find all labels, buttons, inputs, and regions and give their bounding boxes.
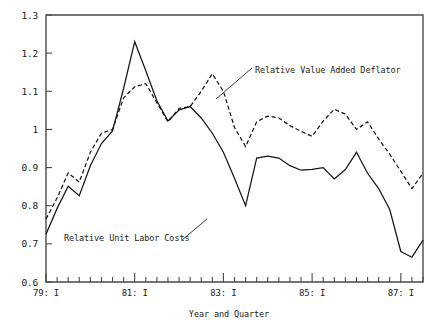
y-axis-tick-label: 1.2	[21, 48, 38, 59]
series-annotation-label: Relative Value Added Deflator	[255, 65, 401, 75]
line-chart: 1.31.21.110.90.80.70.6 79: I81: I83: I85…	[0, 0, 444, 333]
y-axis-tick-label: 1.1	[21, 86, 38, 97]
y-axis-tick-label: 0.6	[21, 277, 38, 288]
y-axis-tick-label: 1.3	[21, 10, 38, 21]
y-axis-tick-label: 0.9	[21, 162, 38, 173]
y-axis-tick-label: 1	[32, 124, 38, 135]
y-axis-tick-label: 0.8	[21, 200, 38, 211]
x-axis-tick-label: 81: I	[122, 288, 148, 298]
series-annotation-label: Relative Unit Labor Costs	[64, 233, 189, 243]
y-axis-ticks	[46, 15, 52, 282]
chart-container: 1.31.21.110.90.80.70.6 79: I81: I83: I85…	[0, 0, 444, 333]
x-axis-tick-label: 85: I	[299, 288, 325, 298]
x-axis-ticks	[46, 273, 423, 282]
x-axis-tick-label: 87: I	[388, 288, 414, 298]
x-axis-tick-labels: 79: I81: I83: I85: I87: I	[33, 288, 414, 298]
x-axis-tick-label: 83: I	[210, 288, 236, 298]
annotation-leader-line	[216, 68, 252, 99]
annotations-group: Relative Value Added DeflatorRelative Un…	[64, 65, 401, 243]
y-axis-tick-label: 0.7	[21, 238, 38, 249]
y-axis-tick-labels: 1.31.21.110.90.80.70.6	[21, 10, 38, 288]
x-axis-tick-label: 79: I	[33, 288, 59, 298]
series-line-relative-value-added-deflator	[46, 74, 423, 219]
x-axis-title: Year and Quarter	[189, 309, 269, 319]
